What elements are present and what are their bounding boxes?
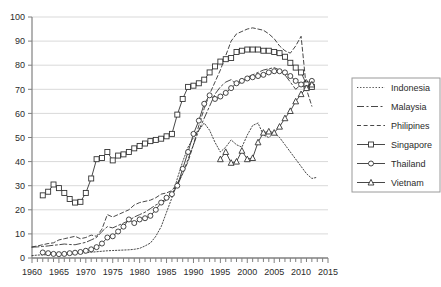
x-axis-tick-label: 1995 [210,267,230,277]
x-axis-tick-label: 2010 [291,267,311,277]
data-point-marker [245,76,250,81]
legend-box [352,78,440,192]
data-point-marker [40,193,45,198]
y-axis-tick-label: 0 [20,253,25,263]
data-point-marker [143,141,148,146]
x-axis-tick-label: 1970 [76,267,96,277]
data-point-marker [67,251,72,256]
data-point-marker [99,155,104,160]
legend-marker-sample [369,161,374,166]
data-point-marker [94,245,99,250]
x-axis-tick-label: 1965 [49,267,69,277]
data-point-marker [126,149,131,154]
x-axis-tick-label: 2005 [264,267,284,277]
data-point-marker [89,176,94,181]
data-point-marker [202,77,207,82]
data-point-marker [126,217,131,222]
data-point-marker [110,234,115,239]
y-axis-tick-label: 50 [15,133,25,143]
data-point-marker [288,74,293,79]
data-point-marker [159,200,164,205]
data-point-marker [272,49,277,54]
data-point-marker [191,83,196,88]
y-axis-tick-label: 40 [15,157,25,167]
data-point-marker [196,81,201,86]
y-axis-tick-label: 70 [15,85,25,95]
data-point-marker [229,55,234,60]
data-point-marker [261,48,266,53]
x-axis-tick-label: 2015 [318,267,338,277]
data-point-marker [121,152,126,157]
data-point-marker [99,241,104,246]
data-point-marker [288,60,293,65]
data-point-marker [46,251,51,256]
data-point-marker [56,186,61,191]
y-axis-tick-label: 60 [15,109,25,119]
data-point-marker [148,213,153,218]
data-point-marker [164,134,169,139]
x-axis: 1960196519701975198019851990199520002005… [22,258,338,277]
data-point-marker [277,51,282,56]
data-point-marker [207,93,212,98]
data-point-marker [229,86,234,91]
data-point-marker [169,131,174,136]
y-axis-tick-label: 90 [15,36,25,46]
data-point-marker [105,149,110,154]
data-point-marker [83,190,88,195]
data-point-marker [293,78,298,83]
data-point-marker [180,96,185,101]
legend-label-indonesia: Indonesia [391,83,430,93]
data-point-marker [218,59,223,64]
data-point-marker [207,70,212,75]
data-point-marker [239,78,244,83]
y-axis-tick-label: 20 [15,205,25,215]
data-point-marker [46,189,51,194]
data-point-marker [218,94,223,99]
data-point-marker [105,235,110,240]
line-chart: 0102030405060708090100 19601965197019751… [0,0,441,287]
data-point-marker [73,200,78,205]
y-axis: 0102030405060708090100 [10,12,32,263]
x-axis-tick-label: 1990 [183,267,203,277]
legend-label-vietnam: Vietnam [391,178,424,188]
legend-label-singapore: Singapore [391,140,432,150]
data-point-marker [239,48,244,53]
data-point-marker [56,252,61,257]
legend-label-thailand: Thailand [391,159,426,169]
data-point-marker [153,137,158,142]
data-point-marker [277,69,282,74]
data-point-marker [62,251,67,256]
y-axis-tick-label: 100 [10,12,25,22]
data-point-marker [51,251,56,256]
data-point-marker [148,139,153,144]
x-axis-tick-label: 1980 [130,267,150,277]
data-point-marker [223,90,228,95]
data-point-marker [62,190,67,195]
data-point-marker [143,216,148,221]
data-point-marker [169,192,174,197]
data-point-marker [137,217,142,222]
data-point-marker [202,101,207,106]
data-point-marker [67,196,72,201]
data-point-marker [234,49,239,54]
legend-label-malaysia: Malaysia [391,102,427,112]
data-point-marker [175,112,180,117]
chart-container: 0102030405060708090100 19601965197019751… [0,0,441,287]
legend-marker-sample [369,142,374,147]
data-point-marker [121,224,126,229]
data-point-marker [299,70,304,75]
data-point-marker [272,69,277,74]
data-point-marker [116,229,121,234]
data-point-marker [132,146,137,151]
y-axis-tick-label: 10 [15,229,25,239]
y-axis-tick-label: 80 [15,60,25,70]
data-point-marker [223,57,228,62]
data-point-marker [245,47,250,52]
data-point-marker [164,195,169,200]
data-point-marker [132,221,137,226]
data-point-marker [250,75,255,80]
data-point-marker [186,149,191,154]
data-point-marker [116,153,121,158]
data-point-marker [159,136,164,141]
data-point-marker [282,54,287,59]
